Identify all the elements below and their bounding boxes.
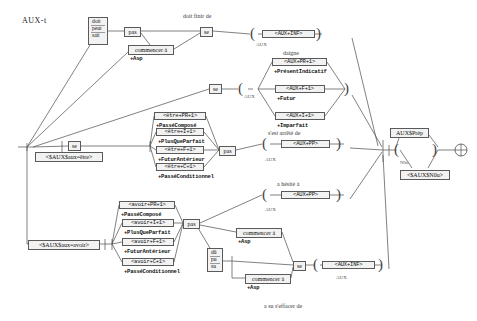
- tag-etre-i-1-feature: +PlusQueParfait: [158, 138, 205, 145]
- annotation-a2: daigne: [283, 50, 299, 56]
- tag-aux-pp-avoir[interactable]: <AUX+PP>: [281, 191, 330, 199]
- node-se-second[interactable]: se: [209, 84, 222, 94]
- node-commencer-a-bottom-feature: +Asp: [247, 284, 259, 291]
- tag-avoir-i-1-feature: +PlusQueParfait: [124, 229, 171, 236]
- node-se-top[interactable]: se: [200, 27, 213, 37]
- open-paren: (: [238, 81, 243, 96]
- sublabel-s6: N0u: [400, 160, 409, 165]
- stack-node-doit-peut-sait[interactable]: doitpeutsait: [88, 17, 108, 45]
- stack-item: su: [210, 264, 220, 270]
- annotation-a1: doit finir de: [183, 13, 211, 19]
- tag-aux-inf-bottom[interactable]: <AUX+INF>: [322, 261, 375, 269]
- annotation-a4: a hésité à: [277, 181, 299, 187]
- tag-etre-c-1[interactable]: <être+C+1>: [156, 163, 204, 171]
- tag-aux-i-1-feature: +Imparfait: [277, 122, 308, 129]
- stack-item: sait: [91, 33, 105, 39]
- node-commencer-a-top-feature: +Asp: [130, 55, 142, 62]
- node-commencer-a-mid[interactable]: commencer à: [236, 228, 282, 238]
- tag-avoir-f-1[interactable]: <avoir+F+1>: [122, 238, 174, 246]
- close-paren: ): [378, 257, 383, 272]
- tag-etre-pr-1[interactable]: <être+PR+1>: [154, 112, 206, 120]
- tag-etre-c-1-feature: +PasséConditionnel: [158, 173, 214, 180]
- open-paren: (: [394, 142, 399, 157]
- sublabel-s5: AUX: [336, 275, 347, 280]
- node-commencer-a-mid-feature: +Asp: [238, 238, 250, 245]
- tag-etre-i-1[interactable]: <être+I+1>: [156, 128, 204, 136]
- tag-avoir-f-1-feature: +FuturAntérieur: [124, 248, 171, 255]
- node-pas-top[interactable]: pas: [124, 27, 141, 37]
- tag-aux-f-1-feature: +Futur: [277, 95, 296, 102]
- tag-aux-inf-top[interactable]: <AUX+INF>: [262, 30, 315, 38]
- sublabel-s2: AUX: [244, 94, 255, 99]
- tag-etre-f-1[interactable]: <être+F+1>: [156, 146, 204, 154]
- tag-avoir-c-1[interactable]: <avoir+C+1>: [122, 258, 174, 266]
- open-paren: (: [262, 136, 267, 151]
- tag-aux-i-1[interactable]: <AUX+I+1>: [275, 112, 325, 120]
- node-aux-aux-avoir[interactable]: <$AUX$aux=avoir>: [28, 240, 100, 250]
- node-pas-etre[interactable]: pas: [219, 146, 236, 156]
- node-aux-prep[interactable]: AUX$Prép: [390, 128, 429, 138]
- close-paren: ): [316, 26, 321, 41]
- node-pas-avoir[interactable]: pas: [183, 219, 200, 229]
- tag-avoir-c-1-feature: +PasséConditionnel: [124, 268, 180, 275]
- sublabel-s1: AUX: [256, 42, 267, 47]
- graph-title: AUX-t: [22, 16, 47, 25]
- tag-aux-f-1[interactable]: <AUX+F+1>: [275, 85, 325, 93]
- node-se-etre-branch[interactable]: se: [68, 141, 81, 151]
- tag-avoir-pr-1-feature: +PasséComposé: [121, 211, 161, 218]
- close-paren: ): [344, 81, 349, 96]
- stack-node-du-pu-su[interactable]: dûpusu: [207, 248, 223, 272]
- annotation-a3: s'est arrêté de: [268, 130, 300, 136]
- tag-etre-f-1-feature: +FuturAntérieur: [158, 156, 205, 163]
- tag-aux-pp-etre[interactable]: <AUX+PP>: [281, 140, 330, 148]
- node-commencer-a-top[interactable]: commencer à: [128, 45, 174, 55]
- tag-avoir-pr-1[interactable]: <avoir+PR+1>: [119, 201, 175, 209]
- close-paren: ): [432, 142, 437, 157]
- close-paren: ): [336, 187, 341, 202]
- open-paren: (: [250, 26, 255, 41]
- annotation-a5: a su s'effacer de: [264, 303, 302, 309]
- node-se-bottom[interactable]: se: [293, 261, 306, 271]
- open-paren: (: [262, 187, 267, 202]
- node-aux-n0u[interactable]: <$AUX$N0u>: [400, 170, 450, 180]
- tag-aux-pr-1-feature: +PrésentIndicatif: [274, 68, 327, 75]
- sublabel-s4: AUX: [265, 207, 276, 212]
- close-paren: ): [336, 136, 341, 151]
- sublabel-s3: AUX: [265, 157, 276, 162]
- transducer-graph-canvas: AUX-t ()()()()()()doitpeutsaitpascommenc…: [0, 0, 477, 321]
- tag-avoir-i-1[interactable]: <avoir+I+1>: [122, 219, 174, 227]
- node-commencer-a-bottom[interactable]: commencer à: [245, 274, 291, 284]
- tag-aux-pr-1[interactable]: <AUX+PR+1>: [272, 58, 327, 66]
- node-aux-aux-etre[interactable]: <$AUX$aux=être>: [35, 152, 103, 162]
- open-paren: (: [313, 257, 318, 272]
